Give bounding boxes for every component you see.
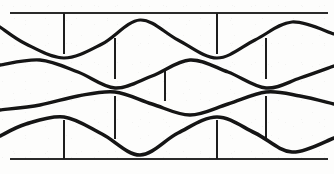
wave-diagram-canvas: [0, 0, 334, 174]
wave-curve-group: [0, 20, 334, 155]
wave-diagram-figure: [0, 0, 334, 174]
tick-mark-group: [64, 13, 266, 159]
wave-2-curve: [0, 60, 334, 88]
wave-4-curve: [0, 117, 334, 155]
wave-3-curve: [0, 92, 334, 115]
wave-1-curve: [0, 20, 334, 58]
